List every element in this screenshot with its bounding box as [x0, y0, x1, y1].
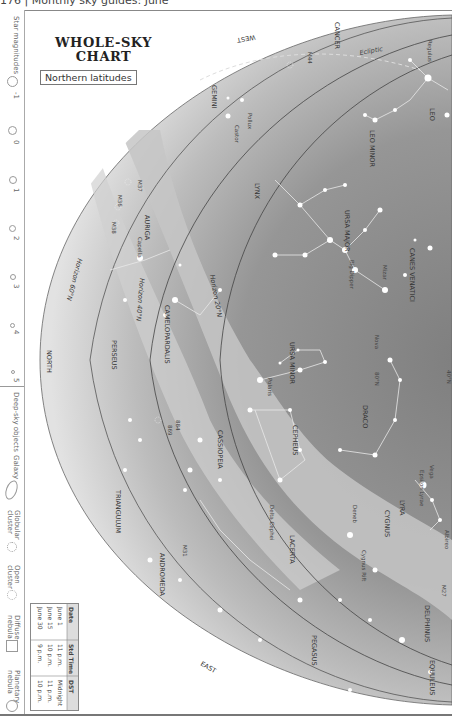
- label-auriga: AURIGA: [143, 215, 151, 241]
- label-camelopardalis: CAMELOPARDALIS: [163, 305, 171, 364]
- label-polaris: Polaris: [267, 378, 273, 396]
- table-header-dst: DST: [68, 680, 75, 694]
- magnitude-circle: [10, 274, 16, 280]
- legend-divider: [0, 386, 24, 387]
- magnitudes-label: Star magnitudes: [12, 16, 20, 74]
- magnitude-label: 5: [12, 378, 20, 382]
- label-delphinus: DELPHINUS: [423, 605, 431, 642]
- label-nova: Nova: [374, 335, 380, 349]
- label-m36: M36: [117, 195, 123, 207]
- label-castor: Castor: [234, 125, 240, 144]
- table-cell: June 15: [46, 606, 54, 630]
- label-equuleus: EQUULEUS: [428, 660, 436, 695]
- magnitude-circle: [9, 225, 16, 232]
- subtitle-box: Northern latitudes: [40, 70, 137, 85]
- diffuse-nebula-icon: [6, 640, 18, 652]
- title-line-1: WHOLE-SKY: [55, 36, 152, 50]
- magnitude-label: 1: [12, 188, 20, 192]
- label-m38: M38: [111, 222, 117, 234]
- label-epsilon-lyrae: Epsilon Lyrae: [418, 470, 425, 507]
- label-cygnus: CYGNUS: [383, 510, 391, 537]
- label-cygnus-rift: Cygnus Rift: [360, 550, 367, 582]
- label-leo: LEO: [428, 108, 436, 121]
- bottom-rule: [0, 714, 452, 716]
- magnitude-label: 0: [12, 140, 20, 144]
- table-cell: Midnight: [56, 680, 64, 707]
- label-cancer: CANCER: [333, 22, 341, 49]
- label-andromeda: ANDROMEDA: [158, 553, 166, 597]
- table-cell: 9 p.m.: [36, 644, 44, 663]
- table-cell: June 1: [56, 606, 64, 626]
- magnitude-label: 2: [12, 236, 20, 240]
- globular-cluster-icon: [7, 542, 17, 552]
- label-cepheus: CEPHEUS: [291, 425, 299, 455]
- label-m31: M31: [182, 545, 188, 557]
- chart-title: WHOLE-SKY CHART: [55, 36, 152, 64]
- magnitude-circle: [8, 126, 17, 135]
- table-header-date: Date: [68, 607, 75, 623]
- label-pollux: Pollux: [247, 113, 253, 130]
- label-869: 869: [167, 425, 173, 436]
- magnitude-label: 4: [12, 330, 20, 334]
- label-gemini: GEMINI: [210, 85, 218, 109]
- divider: [24, 10, 25, 714]
- label-lacerta: LACERTA: [288, 535, 296, 564]
- label-pegasus: PEGASUS: [310, 635, 318, 666]
- label-north: NORTH: [45, 350, 53, 373]
- label-lynx: LYNX: [253, 183, 261, 200]
- legend-strip: Star magnitudes -1 0 1 2 3 4 5 Deep-sky …: [0, 10, 25, 714]
- planetary-nebula-icon: [6, 700, 18, 712]
- label-triangulum: TRIANGULUM: [114, 489, 122, 533]
- label-m37: M37: [137, 180, 143, 192]
- time-table: Date Std Time DST June 1 11 p.m. Midnigh…: [30, 603, 79, 711]
- table-cell: 11 p.m.: [56, 644, 64, 667]
- table-cell: 11 p.m.: [46, 680, 54, 703]
- label-deneb: Deneb: [352, 505, 358, 523]
- galaxy-label: Galaxy: [12, 455, 20, 479]
- label-big-dipper: Big Dipper: [348, 260, 355, 290]
- table-cell: 10 p.m.: [36, 680, 44, 703]
- label-perseus: PERSEUS: [110, 340, 118, 370]
- label-m44: M44: [307, 52, 313, 64]
- label-m27: M27: [441, 585, 447, 597]
- galaxy-icon: [3, 479, 20, 502]
- label-80n: 80°N: [374, 372, 380, 386]
- table-cell: 10 p.m.: [46, 644, 54, 667]
- magnitude-label: -1: [12, 92, 20, 99]
- label-ursa-major: URSA MAJOR: [343, 210, 351, 252]
- label-albireo: Albireo: [444, 530, 450, 550]
- magnitude-label: 3: [12, 284, 20, 288]
- deep-sky-label: Deep-sky objects: [12, 392, 20, 452]
- label-lyra: LYRA: [398, 500, 406, 516]
- magnitude-circle: [10, 323, 15, 328]
- label-capella: Capella: [136, 237, 143, 258]
- label-ursa-minor: URSA MINOR: [288, 342, 296, 385]
- title-line-2: CHART: [55, 50, 152, 64]
- table-header-std: Std Time: [68, 644, 75, 674]
- magnitude-circle: [7, 76, 18, 87]
- open-cluster-icon: [7, 590, 17, 600]
- label-leo-minor: LEO MINOR: [368, 130, 376, 167]
- label-vega: Vega: [428, 465, 435, 479]
- label-40n: 40°N: [446, 370, 452, 384]
- label-draco: DRACO: [361, 405, 369, 428]
- label-west: WEST: [236, 33, 256, 44]
- label-delta-cephei: Delta Cephei: [268, 505, 275, 541]
- label-east: EAST: [199, 660, 217, 675]
- label-canes-venatici: CANES VENATICI: [408, 248, 416, 302]
- label-884: 884: [175, 420, 181, 431]
- magnitude-circle: [11, 370, 15, 374]
- magnitude-circle: [9, 176, 17, 184]
- label-cassiopeia: CASSIOPEIA: [216, 430, 224, 469]
- label-mizar: Mizar: [382, 265, 388, 281]
- table-cell: June 30: [36, 606, 44, 630]
- label-regulus: Regulus: [426, 40, 433, 62]
